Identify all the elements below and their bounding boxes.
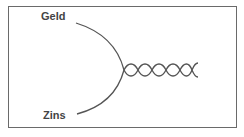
zins-curve — [77, 70, 124, 114]
label-zins: Zins — [43, 110, 66, 121]
diagram-canvas — [0, 0, 244, 137]
geld-curve — [76, 23, 124, 70]
label-geld: Geld — [41, 11, 65, 22]
